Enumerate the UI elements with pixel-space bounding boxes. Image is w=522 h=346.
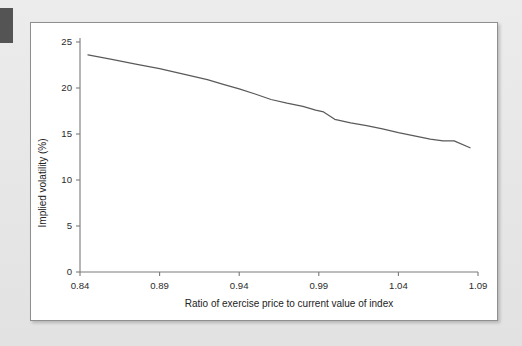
x-tick-label: 1.09	[469, 280, 488, 291]
y-tick-label: 5	[67, 220, 72, 231]
y-axis-title: Implied volatility (%)	[37, 139, 48, 228]
x-tick-label: 0.94	[230, 280, 249, 291]
volatility-skew-chart: 0510152025 0.840.890.940.991.041.09 Impl…	[31, 23, 497, 320]
x-tick-label: 0.84	[71, 280, 90, 291]
x-tick-label: 0.89	[150, 280, 169, 291]
implied-volatility-line	[88, 55, 470, 148]
y-tick-label: 25	[61, 36, 72, 47]
figure-card: 0510152025 0.840.890.940.991.041.09 Impl…	[30, 22, 498, 321]
x-tick-label: 1.04	[389, 280, 408, 291]
x-axis-title: Ratio of exercise price to current value…	[185, 298, 393, 309]
page-background: 0510152025 0.840.890.940.991.041.09 Impl…	[0, 0, 522, 346]
y-tick-label: 0	[67, 266, 72, 277]
data-series-group	[88, 55, 470, 148]
y-tick-label: 20	[61, 82, 72, 93]
y-tick-label: 10	[61, 174, 72, 185]
y-tick-label: 15	[61, 128, 72, 139]
y-axis: 0510152025	[61, 36, 80, 277]
page-edge-tab-marker	[0, 8, 13, 43]
x-axis: 0.840.890.940.991.041.09	[71, 272, 488, 291]
chart-plot-area: 0510152025 0.840.890.940.991.041.09 Impl…	[31, 23, 497, 320]
x-tick-label: 0.99	[309, 280, 328, 291]
